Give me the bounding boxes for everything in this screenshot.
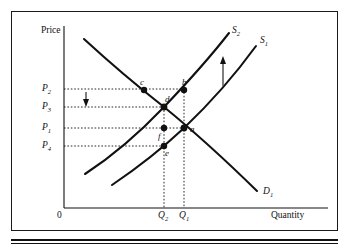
price-tick-p2: P2 (42, 84, 51, 95)
x-axis-label: Quantity (271, 211, 304, 221)
point-label-e: e (165, 149, 169, 158)
point-label-c: c (140, 78, 144, 87)
quantity-tick-q2: Q2 (158, 211, 168, 222)
figure-frame: Price Quantity 0 P2 P3 P1 P4 Q2 Q1 S2 S1… (11, 11, 338, 231)
quantity-tick-q1-base: Q (179, 210, 186, 220)
supply-shift-up-arrow (220, 56, 226, 86)
price-down-arrow (83, 92, 89, 107)
origin-label: 0 (57, 211, 62, 221)
bottom-rule-thick (11, 239, 338, 241)
point-d (161, 104, 168, 111)
quantity-tick-q2-sub: 2 (165, 215, 168, 222)
point-label-d: d (165, 95, 170, 104)
quantity-tick-q2-base: Q (158, 210, 165, 220)
y-axis-label: Price (41, 26, 61, 36)
price-tick-p2-sub: 2 (48, 88, 51, 95)
price-tick-p4: P4 (42, 141, 51, 152)
curve-label-d1-sub: 1 (270, 191, 273, 198)
curve-label-s2-sub: 2 (237, 30, 240, 37)
price-tick-p3: P3 (42, 102, 51, 113)
point-label-f: f (158, 132, 161, 141)
price-tick-p1: P1 (42, 123, 51, 134)
curve-label-d1: D1 (263, 187, 273, 198)
curve-label-s1-sub: 1 (265, 40, 268, 47)
point-c (141, 87, 147, 93)
point-label-a: a (190, 125, 195, 134)
price-tick-p1-sub: 1 (48, 127, 51, 134)
price-tick-p4-sub: 4 (48, 145, 51, 152)
quantity-tick-q1-sub: 1 (186, 215, 189, 222)
bottom-rule-thin (11, 243, 338, 244)
supply-demand-chart (12, 12, 339, 232)
point-a (181, 125, 188, 132)
point-b (181, 87, 187, 93)
price-tick-p3-sub: 3 (48, 106, 51, 113)
point-label-b: b (182, 78, 187, 87)
curve-label-d1-base: D (263, 186, 270, 196)
figure-page: Price Quantity 0 P2 P3 P1 P4 Q2 Q1 S2 S1… (0, 0, 347, 250)
point-f (161, 125, 167, 131)
curve-label-s1: S1 (260, 36, 268, 47)
demand-curve-d1 (84, 39, 257, 191)
curve-label-s2: S2 (232, 26, 240, 37)
quantity-tick-q1: Q1 (179, 211, 189, 222)
